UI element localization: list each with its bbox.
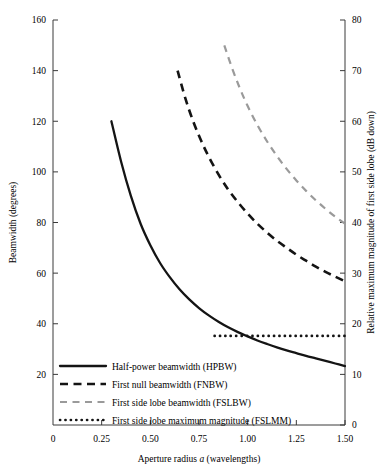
x-axis-tick-label: 1.50 — [337, 434, 354, 444]
y2-axis-title: Relative maximum magnitude of first side… — [366, 111, 377, 334]
x-axis-title: Aperture radius a (wavelengths) — [138, 454, 261, 465]
legend-label-3: First side lobe maximum magnitude (FSLMM… — [112, 416, 291, 427]
y-axis-tick-label: 40 — [37, 319, 47, 329]
x-axis-tick-label: 1.00 — [239, 434, 256, 444]
y2-axis-tick-label: 40 — [352, 218, 362, 228]
y2-axis-tick-label: 10 — [352, 370, 362, 380]
y2-axis-tick-label: 50 — [352, 167, 362, 177]
series-fnbw — [178, 71, 345, 282]
x-axis-tick-label: 0.25 — [93, 434, 110, 444]
series-fslbw — [224, 45, 345, 223]
y2-axis-tick-label: 60 — [352, 117, 362, 127]
y-axis-tick-label: 140 — [32, 66, 47, 76]
x-axis-tick-label: 0 — [51, 434, 56, 444]
y-axis-tick-label: 100 — [32, 167, 47, 177]
x-axis-tick-label: 0.50 — [142, 434, 159, 444]
y2-axis-tick-label: 80 — [352, 15, 362, 25]
x-axis-tick-label: 1.25 — [288, 434, 305, 444]
beamwidth-chart: 204060801001201401600102030405060708000.… — [0, 0, 382, 474]
series-hpbw — [111, 121, 345, 366]
y-axis-title: Beamwidth (degrees) — [8, 182, 19, 264]
y-axis-tick-label: 80 — [37, 218, 47, 228]
y-axis-tick-label: 160 — [32, 15, 47, 25]
legend-label-2: First side lobe beamwidth (FSLBW) — [112, 398, 251, 409]
x-axis-tick-label: 0.75 — [191, 434, 208, 444]
y-axis-tick-label: 60 — [37, 269, 47, 279]
y2-axis-tick-label: 0 — [352, 420, 357, 430]
y2-axis-tick-label: 30 — [352, 269, 362, 279]
y2-axis-tick-label: 20 — [352, 319, 362, 329]
y2-axis-tick-label: 70 — [352, 66, 362, 76]
y-axis-tick-label: 20 — [37, 370, 47, 380]
chart-figure: 204060801001201401600102030405060708000.… — [0, 0, 382, 474]
y-axis-tick-label: 120 — [32, 117, 47, 127]
legend-label-0: Half-power beamwidth (HPBW) — [112, 362, 237, 373]
legend-label-1: First null beamwidth (FNBW) — [112, 380, 227, 391]
